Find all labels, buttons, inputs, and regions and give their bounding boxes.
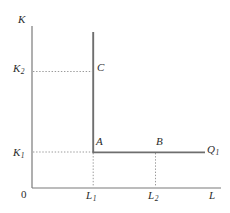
- x-tick-l2-base: L: [148, 189, 154, 201]
- x-tick-l1-base: L: [86, 189, 92, 201]
- isoquant-figure: K L 0 K2 K1 L1 L2 A B C Q1: [0, 0, 230, 213]
- curve-q1-base: Q: [207, 143, 215, 155]
- y-axis-label: K: [18, 14, 26, 25]
- figure-canvas: [0, 0, 230, 213]
- x-tick-label-l1: L1: [86, 190, 96, 201]
- y-tick-label-k2: K2: [13, 63, 25, 74]
- x-axis-label: L: [209, 190, 215, 201]
- point-label-b: B: [156, 136, 163, 147]
- y-tick-k1-sub: 1: [21, 151, 25, 160]
- x-tick-l2-sub: 2: [155, 194, 159, 203]
- y-tick-k2-sub: 2: [21, 67, 25, 76]
- point-label-a: A: [96, 136, 103, 147]
- y-tick-label-k1: K1: [13, 147, 25, 158]
- y-tick-k1-base: K: [13, 146, 21, 158]
- x-tick-label-l2: L2: [148, 190, 158, 201]
- curve-q1-sub: 1: [215, 148, 219, 157]
- x-tick-l1-sub: 1: [93, 194, 97, 203]
- curve-label-q1: Q1: [207, 144, 219, 155]
- point-label-c: C: [97, 62, 105, 73]
- y-tick-k2-base: K: [13, 62, 21, 74]
- origin-label: 0: [21, 189, 27, 200]
